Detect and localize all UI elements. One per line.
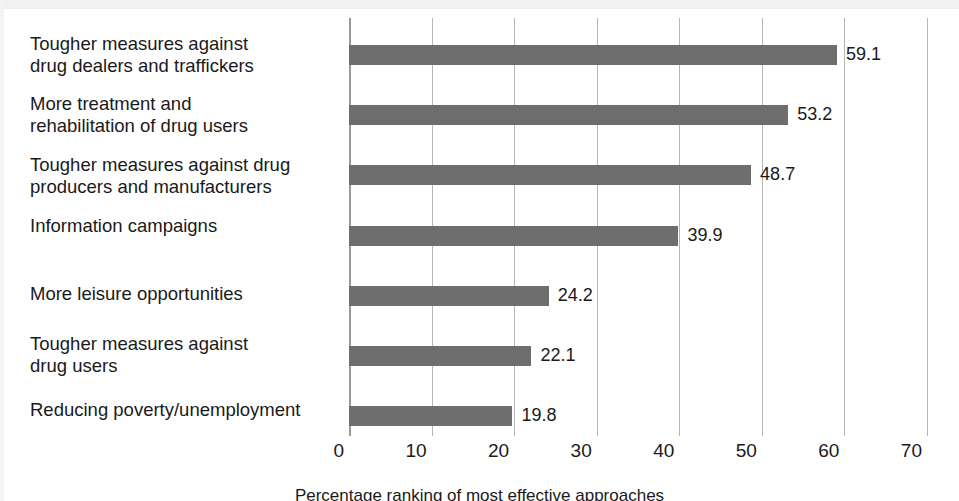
category-label: More leisure opportunities: [30, 283, 340, 305]
x-tick-label-50: 50: [736, 440, 762, 462]
category-label: More treatment and rehabilitation of dru…: [30, 93, 340, 137]
scan-band-top: [0, 0, 959, 9]
bar-value-label: 19.8: [521, 405, 556, 425]
bar-value-label: 39.9: [687, 225, 722, 245]
category-label: Reducing poverty/unemployment: [30, 399, 340, 421]
x-tick-label-20: 20: [488, 440, 514, 462]
bar: [349, 406, 512, 426]
chart-figure: Tougher measures against drug dealers an…: [0, 0, 959, 501]
bar: [349, 105, 788, 125]
bar-value-label: 53.2: [797, 104, 832, 124]
bar: [349, 226, 678, 246]
bar-value-label: 48.7: [760, 164, 795, 184]
category-label: Tougher measures against drug producers …: [30, 154, 340, 198]
gridline-50: [762, 18, 763, 436]
plot-area: 59.153.248.739.924.222.119.8: [349, 18, 927, 436]
gridline-40: [679, 18, 680, 436]
bar-value-label: 24.2: [558, 285, 593, 305]
x-tick-label-10: 10: [405, 440, 431, 462]
x-tick-label-60: 60: [818, 440, 844, 462]
x-tick-label-0: 0: [333, 440, 349, 462]
gridline-70: [927, 18, 928, 436]
category-label: Tougher measures against drug users: [30, 333, 340, 377]
bar: [349, 165, 751, 185]
bar: [349, 45, 837, 65]
bar-value-label: 59.1: [846, 44, 881, 64]
x-axis-tick-group: 010203040506070: [349, 440, 927, 468]
bar: [349, 346, 531, 366]
x-tick-label-30: 30: [571, 440, 597, 462]
category-label: Information campaigns: [30, 215, 340, 237]
x-tick-label-70: 70: [901, 440, 927, 462]
bar-value-label: 22.1: [540, 345, 575, 365]
category-label: Tougher measures against drug dealers an…: [30, 33, 340, 77]
bar: [349, 286, 549, 306]
x-axis-caption: Percentage ranking of most effective app…: [0, 486, 959, 501]
x-tick-label-40: 40: [653, 440, 679, 462]
gridline-60: [844, 18, 845, 436]
scan-band-left: [0, 0, 4, 501]
